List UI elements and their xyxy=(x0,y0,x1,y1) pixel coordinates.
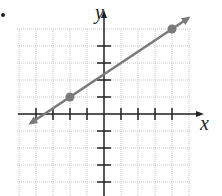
plotted-line xyxy=(28,17,190,125)
x-axis-label: x xyxy=(200,113,209,133)
coordinate-plane xyxy=(0,0,222,196)
y-axis-label: y xyxy=(95,2,104,22)
axes xyxy=(18,10,204,196)
